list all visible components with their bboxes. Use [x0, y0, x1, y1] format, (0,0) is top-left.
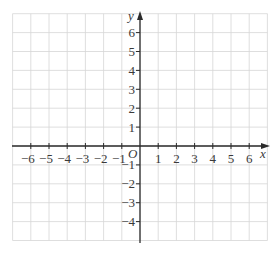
x-tick-label: −4	[57, 151, 71, 166]
x-tick-label: −3	[75, 151, 89, 166]
y-axis-label: y	[126, 8, 134, 23]
x-tick-label: −6	[21, 151, 35, 166]
y-tick-label: −2	[121, 176, 135, 191]
y-axis-arrow-icon	[137, 11, 143, 20]
y-tick-label: 5	[129, 44, 136, 59]
x-tick-label: 4	[210, 151, 217, 166]
coordinate-plane: −6−5−4−3−2−1123456654321−1−2−3−4 x y O	[0, 0, 275, 255]
origin-label: O	[128, 146, 138, 161]
y-tick-label: 1	[129, 120, 136, 135]
y-tick-label: 3	[129, 82, 136, 97]
x-tick-label: 1	[155, 151, 162, 166]
x-tick-label: −2	[94, 151, 108, 166]
y-tick-label: 2	[129, 101, 136, 116]
x-axis-label: x	[259, 146, 266, 161]
x-tick-label: 2	[173, 151, 180, 166]
x-tick-label: 6	[246, 151, 253, 166]
x-tick-label: 5	[228, 151, 235, 166]
y-tick-label: −3	[121, 195, 135, 210]
y-tick-label: 6	[129, 25, 136, 40]
y-tick-label: 4	[129, 63, 136, 78]
x-tick-label: 3	[191, 151, 198, 166]
x-tick-label: −5	[39, 151, 53, 166]
y-tick-label: −4	[121, 214, 135, 229]
